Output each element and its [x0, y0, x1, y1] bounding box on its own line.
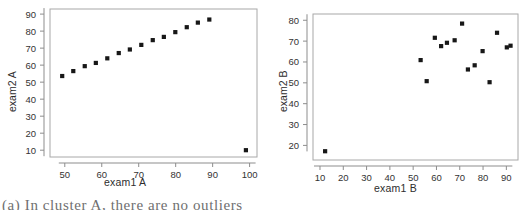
data-points [323, 21, 513, 153]
data-point [453, 38, 457, 42]
plot-frame [313, 14, 518, 160]
figure-caption-clipped: (a) In cluster A, there are no outliers [0, 197, 529, 210]
svg-text:90: 90 [207, 169, 218, 180]
data-point [207, 17, 211, 21]
svg-text:70: 70 [454, 172, 465, 183]
svg-text:40: 40 [25, 94, 36, 105]
data-point [460, 21, 464, 25]
data-point [323, 149, 327, 153]
svg-text:20: 20 [25, 128, 36, 139]
data-point [244, 148, 248, 152]
data-point [94, 61, 98, 65]
data-point [505, 45, 509, 49]
svg-text:30: 30 [361, 172, 372, 183]
svg-text:10: 10 [25, 145, 36, 156]
svg-text:30: 30 [25, 111, 36, 122]
svg-text:50: 50 [59, 169, 70, 180]
x-axis-title-a: exam1 A [104, 176, 146, 188]
data-point [105, 56, 109, 60]
y-axis-title-b: exam2 B [277, 71, 289, 112]
data-point [128, 47, 132, 51]
svg-text:90: 90 [501, 172, 512, 183]
y-axis: 102030405060708090 [25, 8, 44, 156]
svg-text:80: 80 [25, 26, 36, 37]
panel-exam-b: 10203040506070809020304050607080 [265, 0, 529, 210]
data-point [466, 67, 470, 71]
y-axis-title-a: exam2 A [6, 71, 18, 112]
y-axis: 20304050607080 [288, 14, 307, 151]
data-point [495, 31, 499, 35]
svg-text:10: 10 [315, 172, 326, 183]
svg-text:30: 30 [288, 119, 299, 130]
svg-text:70: 70 [25, 43, 36, 54]
svg-text:20: 20 [288, 140, 299, 151]
svg-text:60: 60 [431, 172, 442, 183]
data-points [60, 17, 248, 152]
data-point [162, 35, 166, 39]
data-point [473, 63, 477, 67]
svg-text:60: 60 [25, 60, 36, 71]
figure-two-scatterplots: 5060708090100102030405060708090 exam1 A … [0, 0, 529, 210]
data-point [445, 41, 449, 45]
svg-text:50: 50 [288, 77, 299, 88]
svg-text:40: 40 [288, 98, 299, 109]
data-point [439, 44, 443, 48]
scatter-plot-b: 10203040506070809020304050607080 [265, 0, 529, 192]
svg-text:100: 100 [242, 169, 258, 180]
data-point [173, 30, 177, 34]
svg-text:60: 60 [288, 56, 299, 67]
svg-text:50: 50 [25, 77, 36, 88]
panel-exam-a: 5060708090100102030405060708090 exam1 A … [0, 0, 265, 210]
data-point [83, 64, 87, 68]
data-point [196, 21, 200, 25]
data-point [425, 79, 429, 83]
x-axis-title-b: exam1 B [374, 182, 417, 194]
x-axis: 102030405060708090 [314, 166, 512, 183]
data-point [139, 43, 143, 47]
data-point [433, 36, 437, 40]
svg-text:80: 80 [478, 172, 489, 183]
plot-frame [50, 9, 257, 157]
data-point [60, 74, 64, 78]
data-point [185, 25, 189, 29]
svg-text:90: 90 [25, 9, 36, 20]
svg-text:80: 80 [288, 15, 299, 26]
data-point [480, 49, 484, 53]
svg-text:70: 70 [288, 36, 299, 47]
data-point [117, 51, 121, 55]
svg-text:20: 20 [338, 172, 349, 183]
data-point [71, 69, 75, 73]
data-point [419, 58, 423, 62]
data-point [487, 80, 491, 84]
x-axis: 5060708090100 [59, 163, 258, 180]
data-point [508, 44, 512, 48]
data-point [151, 38, 155, 42]
svg-text:80: 80 [170, 169, 181, 180]
scatter-plot-a: 5060708090100102030405060708090 [0, 0, 265, 192]
caption-text: (a) In cluster A, there are no outliers [2, 197, 243, 210]
